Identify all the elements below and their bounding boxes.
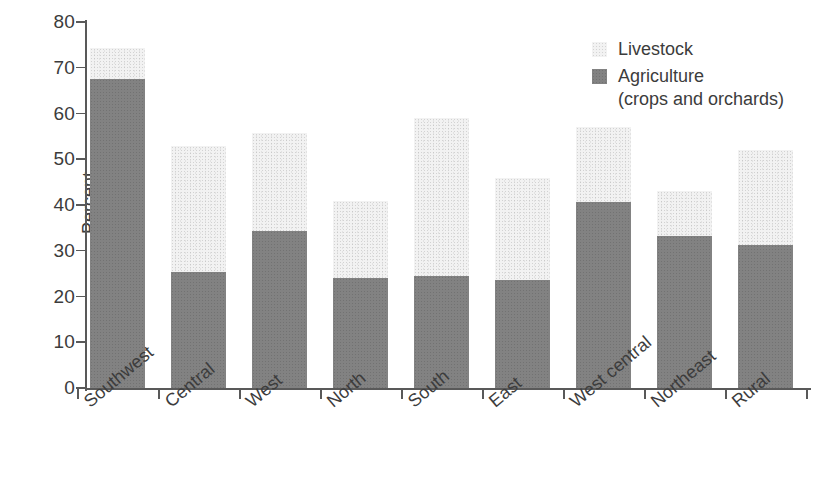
legend-label-agriculture: Agriculture (crops and orchards) (618, 65, 784, 111)
bar-segment-livestock (171, 146, 226, 272)
legend-item-agriculture: Agriculture (crops and orchards) (592, 65, 784, 111)
y-tick-mark (76, 113, 85, 115)
y-tick-mark (76, 204, 85, 206)
bar-segment-livestock (495, 178, 550, 280)
bar-segment-agriculture (90, 79, 145, 388)
x-tick-mark (482, 388, 484, 399)
y-axis-line (85, 20, 87, 391)
bar-segment-agriculture (495, 280, 550, 388)
bar-segment-livestock (90, 48, 145, 79)
x-tick-mark (725, 388, 727, 399)
legend-label-agriculture-sub: (crops and orchards) (618, 88, 784, 111)
y-tick-label: 20 (53, 286, 75, 308)
bar-segment-livestock (576, 127, 631, 202)
x-tick-mark (158, 388, 160, 399)
x-tick-mark (806, 388, 808, 399)
x-tick-mark (644, 388, 646, 399)
y-tick-label: 10 (53, 331, 75, 353)
y-tick-label: 50 (53, 148, 75, 170)
x-tick-mark (401, 388, 403, 399)
stacked-bar-chart: Percent 01020304050607080 SouthwestCentr… (0, 0, 813, 500)
chart-legend: Livestock Agriculture (crops and orchard… (592, 38, 784, 115)
bar-segment-livestock (252, 133, 307, 231)
bar-segment-livestock (414, 118, 469, 276)
y-tick-label: 0 (64, 377, 75, 399)
y-tick-mark (76, 341, 85, 343)
legend-label-livestock: Livestock (618, 38, 693, 61)
y-tick-mark (76, 67, 85, 69)
bar-segment-agriculture (252, 231, 307, 388)
y-tick-mark (76, 158, 85, 160)
bar-group (90, 48, 145, 388)
bar-group (171, 146, 226, 388)
y-tick-mark (76, 250, 85, 252)
bar-group (252, 133, 307, 388)
y-tick-label: 60 (53, 103, 75, 125)
x-tick-mark (239, 388, 241, 399)
y-tick-mark (76, 21, 85, 23)
bar-segment-livestock (657, 191, 712, 236)
y-tick-label: 40 (53, 194, 75, 216)
y-tick-label: 80 (53, 11, 75, 33)
x-tick-mark (77, 388, 79, 399)
bar-segment-livestock (333, 201, 388, 278)
legend-swatch-livestock (592, 42, 607, 57)
bar-group (738, 150, 793, 388)
bar-segment-agriculture (738, 245, 793, 388)
legend-item-livestock: Livestock (592, 38, 784, 61)
y-tick-label: 30 (53, 240, 75, 262)
x-tick-mark (320, 388, 322, 399)
bar-group (333, 201, 388, 388)
y-tick-label: 70 (53, 57, 75, 79)
bar-segment-livestock (738, 150, 793, 245)
y-tick-mark (76, 296, 85, 298)
bar-group (414, 118, 469, 388)
x-tick-mark (563, 388, 565, 399)
legend-label-agriculture-main: Agriculture (618, 66, 704, 86)
bar-group (495, 178, 550, 388)
legend-swatch-agriculture (592, 69, 607, 84)
